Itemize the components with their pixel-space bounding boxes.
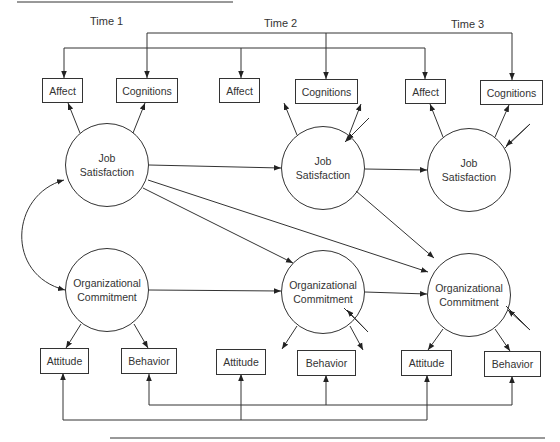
- cognitions-time3-box: Cognitions: [480, 80, 543, 105]
- job-satisfaction-time3-node: Job Satisfaction: [427, 128, 511, 212]
- affect-time3-box: Affect: [405, 79, 446, 104]
- behavior-time3-box: Behavior: [484, 351, 541, 377]
- attitude-time3-box: Attitude: [401, 350, 452, 376]
- organizational-commitment-time2-node: Organizational Commitment: [281, 250, 365, 334]
- node-label-line2: Commitment: [77, 290, 137, 304]
- node-label-line1: Organizational: [73, 276, 141, 290]
- node-label-line2: Commitment: [293, 292, 353, 306]
- node-label-line2: Satisfaction: [80, 165, 134, 179]
- node-label-line1: Organizational: [435, 281, 503, 295]
- node-label-line2: Commitment: [439, 295, 499, 309]
- node-label-line1: Job: [99, 151, 116, 165]
- time-3-label: Time 3: [451, 18, 484, 30]
- organizational-commitment-time3-node: Organizational Commitment: [427, 253, 511, 337]
- organizational-commitment-time1-node: Organizational Commitment: [65, 248, 149, 332]
- diagram-lines: [0, 0, 560, 442]
- node-label-line1: Job: [461, 156, 478, 170]
- node-label-line2: Satisfaction: [296, 168, 350, 182]
- time-2-label: Time 2: [264, 17, 297, 29]
- node-label-line2: Satisfaction: [442, 170, 496, 184]
- node-label-line1: Organizational: [289, 278, 357, 292]
- job-satisfaction-time2-node: Job Satisfaction: [281, 126, 365, 210]
- cognitions-time1-box: Cognitions: [116, 78, 178, 103]
- cognitions-time2-box: Cognitions: [295, 79, 358, 104]
- job-satisfaction-time1-node: Job Satisfaction: [65, 123, 149, 207]
- behavior-time2-box: Behavior: [297, 350, 356, 376]
- affect-time2-box: Affect: [219, 78, 260, 103]
- time-1-label: Time 1: [90, 15, 123, 27]
- attitude-time1-box: Attitude: [40, 348, 89, 374]
- behavior-time1-box: Behavior: [121, 348, 177, 374]
- node-label-line1: Job: [315, 154, 332, 168]
- affect-time1-box: Affect: [42, 78, 83, 103]
- attitude-time2-box: Attitude: [216, 349, 266, 375]
